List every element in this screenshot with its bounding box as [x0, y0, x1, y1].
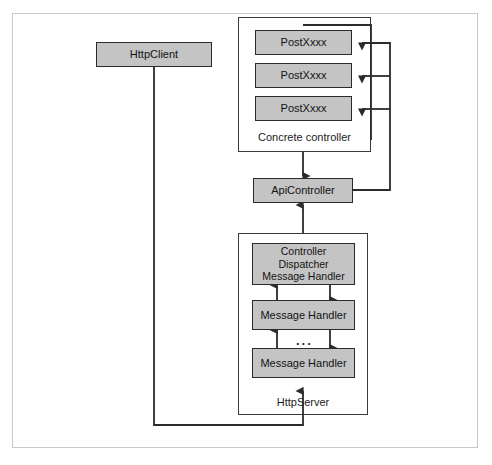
node-controller-dispatcher-line-1: Controller Dispatcher [256, 245, 351, 270]
node-message-handler-2[interactable]: Message Handler [252, 348, 355, 378]
node-api-controller[interactable]: ApiController [253, 178, 353, 203]
group-http-server-label: HttpServer [238, 396, 368, 409]
node-controller-dispatcher-message-handler[interactable]: Controller Dispatcher Message Handler [252, 243, 355, 285]
node-post-action-3-label: PostXxxx [281, 102, 327, 115]
node-http-client-label: HttpClient [130, 48, 178, 61]
node-http-client[interactable]: HttpClient [96, 42, 212, 67]
node-post-action-3[interactable]: PostXxxx [255, 96, 352, 121]
handler-ellipsis: ... [296, 336, 313, 346]
group-concrete-controller-label: Concrete controller [238, 131, 371, 144]
node-post-action-1[interactable]: PostXxxx [255, 30, 352, 55]
node-post-action-2-label: PostXxxx [281, 69, 327, 82]
node-message-handler-2-label: Message Handler [260, 357, 346, 370]
node-api-controller-label: ApiController [271, 184, 335, 197]
node-message-handler-1-label: Message Handler [260, 309, 346, 322]
node-controller-dispatcher-line-2: Message Handler [262, 270, 344, 283]
architecture-diagram-figure: Concrete controller HttpServer [0, 0, 492, 465]
node-message-handler-1[interactable]: Message Handler [252, 300, 355, 330]
node-post-action-1-label: PostXxxx [281, 36, 327, 49]
node-post-action-2[interactable]: PostXxxx [255, 63, 352, 88]
